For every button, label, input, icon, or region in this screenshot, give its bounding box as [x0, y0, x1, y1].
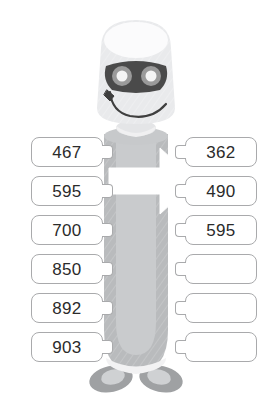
left-number-column: 467 595 700 850 [31, 137, 103, 371]
number-box-right-1[interactable]: 362 [185, 137, 257, 167]
list-item[interactable] [185, 332, 257, 362]
connector-seam [101, 224, 104, 236]
connector-seam [101, 146, 104, 158]
number-box-left-2[interactable]: 595 [31, 176, 103, 206]
number-value: 595 [52, 183, 81, 200]
number-value: 362 [206, 144, 235, 161]
connector-seam [101, 341, 104, 353]
list-item[interactable]: 490 [185, 176, 257, 206]
number-box-right-3[interactable]: 595 [185, 215, 257, 245]
list-item[interactable]: 595 [185, 215, 257, 245]
number-box-left-5[interactable]: 892 [31, 293, 103, 323]
connector-seam [101, 302, 104, 314]
worksheet-canvas: 467 595 700 850 [0, 0, 272, 412]
number-box-left-4[interactable]: 850 [31, 254, 103, 284]
number-box-left-6[interactable]: 903 [31, 332, 103, 362]
list-item[interactable]: 892 [31, 293, 103, 323]
number-value: 467 [52, 144, 81, 161]
list-item[interactable] [185, 293, 257, 323]
connector-seam [101, 185, 104, 197]
connector-seam [101, 263, 104, 275]
number-boxes: 467 595 700 850 [0, 0, 272, 412]
list-item[interactable]: 467 [31, 137, 103, 167]
connector-seam [184, 341, 187, 353]
number-box-right-5[interactable] [185, 293, 257, 323]
list-item[interactable]: 362 [185, 137, 257, 167]
connector-seam [184, 302, 187, 314]
number-box-left-3[interactable]: 700 [31, 215, 103, 245]
connector-seam [184, 263, 187, 275]
number-value: 700 [52, 222, 81, 239]
number-value: 595 [206, 222, 235, 239]
number-value: 903 [52, 339, 81, 356]
list-item[interactable]: 850 [31, 254, 103, 284]
list-item[interactable]: 595 [31, 176, 103, 206]
right-number-column: 362 490 595 [185, 137, 257, 371]
number-box-right-4[interactable] [185, 254, 257, 284]
connector-seam [184, 146, 187, 158]
number-value: 892 [52, 300, 81, 317]
number-value: 850 [52, 261, 81, 278]
number-value: 490 [206, 183, 235, 200]
number-box-left-1[interactable]: 467 [31, 137, 103, 167]
number-box-right-2[interactable]: 490 [185, 176, 257, 206]
list-item[interactable]: 700 [31, 215, 103, 245]
connector-seam [184, 224, 187, 236]
list-item[interactable] [185, 254, 257, 284]
number-box-right-6[interactable] [185, 332, 257, 362]
connector-seam [184, 185, 187, 197]
list-item[interactable]: 903 [31, 332, 103, 362]
